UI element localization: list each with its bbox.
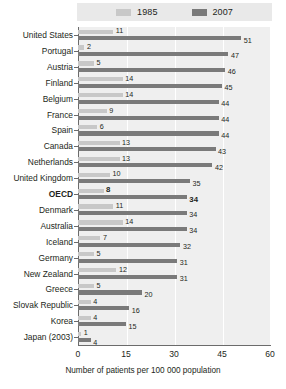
bar-value-1985: 13 — [122, 139, 130, 146]
bar-2007 — [78, 163, 212, 167]
bar-2007 — [78, 68, 225, 72]
bar-2007 — [78, 290, 142, 294]
chart-row: Australia1434 — [0, 218, 286, 235]
row-label-portugal: Portugal — [0, 43, 73, 60]
chart-row: Slovak Republic416 — [0, 297, 286, 314]
chart-row: Greece520 — [0, 281, 286, 298]
row-label-spain: Spain — [0, 122, 73, 139]
bar-1985 — [78, 157, 120, 161]
bar-value-1985: 7 — [103, 234, 107, 241]
legend-swatch-2007 — [192, 9, 207, 16]
bar-value-1985: 4 — [93, 314, 97, 321]
chart-row: Germany531 — [0, 250, 286, 267]
bar-1985 — [78, 141, 120, 145]
bar-2007 — [78, 227, 187, 231]
bar-2007 — [78, 100, 219, 104]
bar-value-1985: 11 — [116, 27, 123, 34]
row-label-austria: Austria — [0, 59, 73, 76]
bar-2007 — [78, 84, 222, 88]
row-label-canada: Canada — [0, 138, 73, 155]
bar-2007 — [78, 195, 187, 199]
bar-value-1985: 6 — [100, 123, 104, 130]
chart-row: Denmark1134 — [0, 202, 286, 219]
bar-1985 — [78, 109, 107, 113]
bar-value-1985: 14 — [125, 218, 133, 225]
row-label-australia: Australia — [0, 218, 73, 235]
chart-row: Canada1343 — [0, 138, 286, 155]
bar-value-1985: 11 — [116, 202, 123, 209]
x-tick-label: 30 — [159, 349, 189, 359]
bar-1985 — [78, 236, 100, 240]
bar-1985 — [78, 93, 123, 97]
row-label-slovak-republic: Slovak Republic — [0, 297, 73, 314]
row-label-greece: Greece — [0, 281, 73, 298]
bar-1985 — [78, 268, 116, 272]
row-label-iceland: Iceland — [0, 234, 73, 251]
bar-value-1985: 13 — [122, 155, 130, 162]
bar-value-1985: 10 — [113, 170, 121, 177]
row-label-united-states: United States — [0, 27, 73, 44]
bar-2007 — [78, 259, 177, 263]
bar-value-1985: 14 — [125, 75, 133, 82]
row-label-oecd: OECD — [0, 186, 73, 203]
x-tick-label: 15 — [111, 349, 141, 359]
bar-1985 — [78, 284, 94, 288]
bar-value-1985: 5 — [97, 59, 101, 66]
bar-1985 — [78, 204, 113, 208]
chart-container: 1985 2007 United States1151Portugal247Au… — [0, 0, 286, 389]
row-label-denmark: Denmark — [0, 202, 73, 219]
bar-value-1985: 1 — [84, 329, 88, 336]
chart-row: Belgium1444 — [0, 91, 286, 108]
row-label-netherlands: Netherlands — [0, 154, 73, 171]
row-label-japan-2003: Japan (2003) — [0, 329, 73, 346]
chart-legend: 1985 2007 — [77, 3, 272, 21]
chart-row: Netherlands1342 — [0, 154, 286, 171]
chart-row: Iceland732 — [0, 234, 286, 251]
chart-row: Japan (2003)14 — [0, 329, 286, 346]
bar-1985 — [78, 316, 91, 320]
bar-1985 — [78, 173, 110, 177]
legend-label-2007: 2007 — [213, 8, 233, 17]
bar-1985 — [78, 30, 113, 34]
bar-1985 — [78, 189, 104, 193]
bar-1985 — [78, 300, 91, 304]
bar-2007 — [78, 52, 228, 56]
legend-item-2007: 2007 — [192, 8, 233, 17]
x-axis-title: Number of patients per 100 000 populatio… — [0, 366, 286, 376]
bar-1985 — [78, 220, 123, 224]
bar-2007 — [78, 131, 219, 135]
x-tick-label: 0 — [63, 349, 93, 359]
x-tick-label: 45 — [207, 349, 237, 359]
bar-2007 — [78, 322, 126, 326]
row-label-germany: Germany — [0, 250, 73, 267]
bar-value-1985: 12 — [119, 266, 127, 273]
bar-2007 — [78, 36, 241, 40]
bar-value-1985: 4 — [93, 298, 97, 305]
chart-row: Austria546 — [0, 59, 286, 76]
bar-1985 — [78, 77, 123, 81]
x-tick-label: 60 — [255, 349, 285, 359]
bar-1985 — [78, 252, 94, 256]
legend-item-1985: 1985 — [116, 8, 157, 17]
row-label-korea: Korea — [0, 313, 73, 330]
chart-row: Portugal247 — [0, 43, 286, 60]
bar-value-1985: 5 — [97, 282, 101, 289]
bar-1985 — [78, 45, 84, 49]
chart-row: Finland1445 — [0, 75, 286, 92]
bar-value-1985: 14 — [125, 91, 133, 98]
row-label-new-zealand: New Zealand — [0, 266, 73, 283]
bar-2007 — [78, 243, 180, 247]
bar-2007 — [78, 116, 219, 120]
row-label-finland: Finland — [0, 75, 73, 92]
bar-1985 — [78, 125, 97, 129]
row-label-united-kingdom: United Kingdom — [0, 170, 73, 187]
bar-2007 — [78, 338, 91, 342]
chart-row: New Zealand1231 — [0, 266, 286, 283]
chart-row: United States1151 — [0, 27, 286, 44]
bar-2007 — [78, 179, 190, 183]
chart-row: Korea415 — [0, 313, 286, 330]
chart-row: France944 — [0, 107, 286, 124]
bar-2007 — [78, 211, 187, 215]
legend-swatch-1985 — [116, 9, 131, 16]
bar-value-1985: 5 — [97, 250, 101, 257]
